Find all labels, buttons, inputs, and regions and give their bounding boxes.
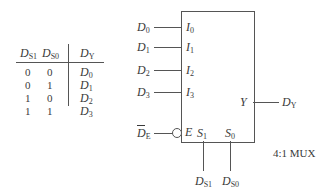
pin-i2: I2 xyxy=(186,64,194,80)
header-ds0: DS0 xyxy=(42,47,59,63)
cell-s0: 0 xyxy=(47,67,53,78)
cell-s1: 0 xyxy=(25,80,31,91)
input-signal-d3: D3 xyxy=(137,86,150,102)
cell-s1: 0 xyxy=(25,67,31,78)
input-signal-d2: D2 xyxy=(137,64,150,80)
pin-y: Y xyxy=(240,96,247,108)
cell-s1: 1 xyxy=(25,106,31,117)
header-divider xyxy=(16,62,104,63)
input-wire-3 xyxy=(154,92,181,93)
overbar xyxy=(137,125,145,126)
input-wire-0 xyxy=(154,27,181,28)
column-divider xyxy=(68,44,69,106)
input-wire-2 xyxy=(154,70,181,71)
enable-wire xyxy=(154,133,173,134)
select-signal-ds1: DS1 xyxy=(195,175,212,187)
pin-e: E xyxy=(185,126,192,138)
pin-i1: I1 xyxy=(186,41,194,57)
cell-s0: 0 xyxy=(47,93,53,104)
cell-y: D3 xyxy=(80,105,93,121)
pin-s1: S1 xyxy=(197,127,207,143)
enable-signal: DE xyxy=(137,127,151,143)
inversion-bubble-icon xyxy=(172,128,182,138)
cell-s0: 1 xyxy=(47,80,53,91)
select-wire-s1 xyxy=(203,141,204,171)
output-signal-dy: DY xyxy=(282,96,296,112)
input-wire-1 xyxy=(154,47,181,48)
header-ds1: DS1 xyxy=(20,47,37,63)
cell-s0: 1 xyxy=(47,106,53,117)
header-dy: DY xyxy=(80,47,94,63)
cell-s1: 1 xyxy=(25,93,31,104)
output-wire xyxy=(253,102,279,103)
input-signal-d1: D1 xyxy=(137,41,150,57)
pin-i0: I0 xyxy=(186,21,194,37)
input-signal-d0: D0 xyxy=(137,21,150,37)
mux-title: 4:1 MUX xyxy=(273,148,315,159)
select-signal-ds0: DS0 xyxy=(222,175,239,187)
select-wire-s0 xyxy=(230,141,231,171)
pin-i3: I3 xyxy=(186,86,194,102)
